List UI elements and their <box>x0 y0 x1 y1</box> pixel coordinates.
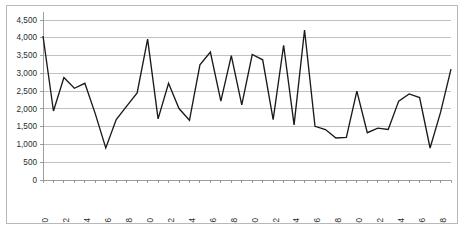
x-tick-label: 1980 <box>146 218 155 223</box>
x-tick-label: 1972 <box>62 218 71 223</box>
y-tick-label: 3,000 <box>17 69 38 78</box>
gridlines-group <box>40 20 451 180</box>
y-tick-label: 2,500 <box>17 87 38 96</box>
x-tick-label: 1994 <box>292 218 301 223</box>
y-tick-label: 0 <box>32 176 37 185</box>
x-tick-label: 2000 <box>355 218 364 223</box>
y-tick-label: 3,500 <box>17 51 38 60</box>
y-tick-label: 1,000 <box>17 140 38 149</box>
chart-figure: 4,5004,0003,5003,0002,5002,0001,5001,000… <box>0 0 465 230</box>
x-tick-label: 2996 <box>418 218 427 223</box>
x-tick-label: 1996 <box>313 218 322 223</box>
y-tick-label: 4,000 <box>17 33 38 42</box>
x-tick-label: 1982 <box>167 218 176 223</box>
x-tick-label: 1970 <box>41 218 50 223</box>
x-tick-label: 2002 <box>376 218 385 223</box>
x-tick-label: 1990 <box>251 218 260 223</box>
x-tick-label: 1974 <box>83 218 92 223</box>
y-axis-tick-labels: 4,5004,0003,5003,0002,5002,0001,5001,000… <box>17 16 38 185</box>
x-tick-label: 1986 <box>209 218 218 223</box>
y-tick-label: 2,000 <box>17 105 38 114</box>
x-tick-label: 1976 <box>104 218 113 223</box>
x-axis-tick-labels: 1970197219741976197819801982198419861988… <box>41 218 448 223</box>
y-tick-label: 1,500 <box>17 122 38 131</box>
y-tick-label: 4,500 <box>17 16 38 25</box>
line-chart-svg: 4,5004,0003,5003,0002,5002,0001,5001,000… <box>7 6 457 223</box>
data-series-line <box>43 30 451 148</box>
x-tick-label: 1992 <box>272 218 281 223</box>
x-tick-label: 1988 <box>230 218 239 223</box>
x-tick-label: 1978 <box>125 218 134 223</box>
x-tick-label: 2008 <box>439 218 448 223</box>
x-tick-label: 1998 <box>334 218 343 223</box>
y-tick-label: 500 <box>23 158 37 167</box>
chart-plot-frame: 4,5004,0003,5003,0002,5002,0001,5001,000… <box>6 5 458 224</box>
x-tick-label: 2004 <box>397 218 406 223</box>
x-tick-label: 1984 <box>188 218 197 223</box>
x-axis-tickmarks <box>43 180 451 183</box>
